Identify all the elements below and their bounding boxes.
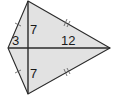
label-right-twelve: 12 <box>61 33 75 48</box>
kite-diagram: 7 7 3 12 <box>0 0 115 98</box>
label-left-three: 3 <box>12 33 19 48</box>
label-upper-seven: 7 <box>30 22 37 37</box>
label-lower-seven: 7 <box>30 66 37 81</box>
